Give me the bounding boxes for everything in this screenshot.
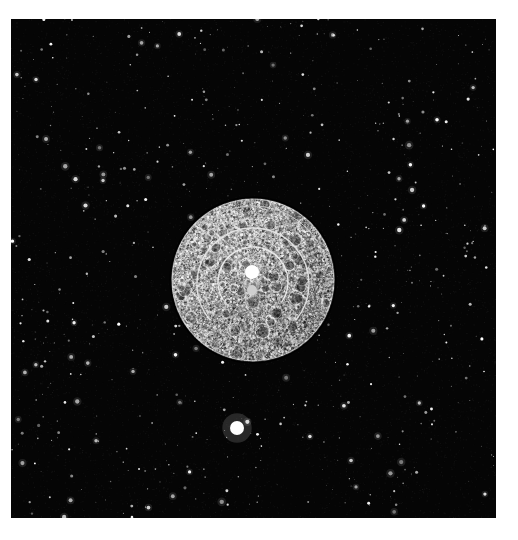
astronomical-photograph-canvas bbox=[11, 19, 496, 518]
moon-star-field-plate bbox=[11, 19, 496, 518]
screenshot-root: The Moon over a dense star field bbox=[0, 0, 518, 540]
